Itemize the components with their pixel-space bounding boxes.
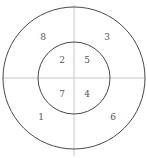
region-label-1: 1 <box>34 113 48 122</box>
region-label-4: 4 <box>80 90 94 99</box>
concentric-circles-diagram: 1 2 3 4 5 6 7 8 <box>0 0 147 158</box>
region-label-2: 2 <box>55 56 69 65</box>
region-label-7: 7 <box>55 90 69 99</box>
region-label-3: 3 <box>100 33 114 42</box>
diagram-canvas <box>0 0 147 158</box>
region-label-5: 5 <box>80 56 94 65</box>
region-label-6: 6 <box>106 113 120 122</box>
region-label-8: 8 <box>36 33 50 42</box>
